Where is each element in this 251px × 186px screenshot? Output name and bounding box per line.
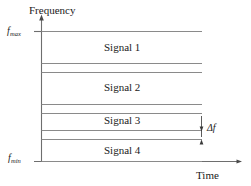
band-label-signal-1: Signal 1 bbox=[104, 41, 140, 53]
x-axis-arrowhead-icon bbox=[237, 159, 243, 163]
delta-f-arrowhead-up-icon bbox=[200, 139, 204, 144]
fmax-subscript: max bbox=[10, 30, 21, 37]
fmin-subscript: min bbox=[11, 157, 21, 164]
frequency-time-band-diagram: Frequency Time fmax fmin Signal 1 Signal… bbox=[0, 0, 251, 186]
y-axis-max-tick-label: fmax bbox=[7, 25, 21, 36]
band-label-signal-4: Signal 4 bbox=[104, 144, 140, 156]
band-label-signal-2: Signal 2 bbox=[104, 81, 140, 93]
y-axis-min-tick-label: fmin bbox=[8, 152, 21, 163]
x-axis-title: Time bbox=[196, 169, 219, 181]
diagram-canvas bbox=[0, 0, 251, 186]
y-axis-title: Frequency bbox=[29, 4, 75, 16]
band-label-signal-3: Signal 3 bbox=[104, 114, 140, 126]
delta-f-annotation-label: Δf bbox=[207, 122, 216, 133]
